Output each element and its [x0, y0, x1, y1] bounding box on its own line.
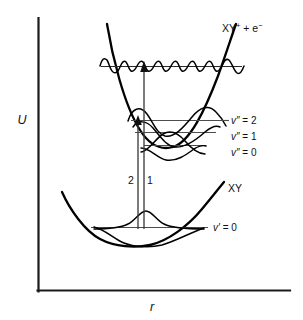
y-axis-label: U: [17, 113, 27, 127]
level-label-v1: v″ = 1: [231, 131, 257, 142]
diagram-canvas: U r v″ = 2: [0, 0, 303, 320]
potential-energy-diagram: U r v″ = 2: [0, 0, 303, 320]
transition-label-2: 2: [128, 174, 134, 186]
ion-state-label: XY+ + e−: [222, 21, 263, 34]
neutral-wavefunctions: [94, 211, 204, 247]
x-axis-label: r: [150, 300, 155, 314]
level-label-v2: v″ = 2: [231, 115, 257, 126]
ion-curve-path: [107, 24, 236, 148]
neutral-state-label: XY: [228, 182, 242, 194]
ion-potential-curve: [107, 24, 236, 148]
level-label-neutral-v0: v′ = 0: [213, 222, 237, 233]
level-label-v0: v″ = 0: [231, 147, 257, 158]
transition-label-1: 1: [147, 174, 153, 186]
ion-level-labels: v″ = 2 v″ = 1 v″ = 0: [231, 115, 257, 158]
wavefunction-neutral-v0: [94, 211, 204, 229]
neutral-potential-curve: [62, 182, 224, 247]
neutral-curve-path: [62, 182, 224, 247]
